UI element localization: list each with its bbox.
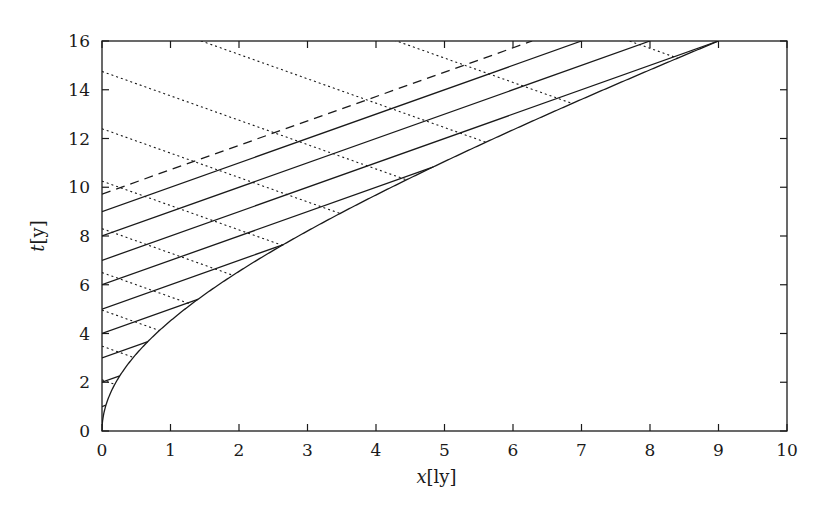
y-tick-label: 0: [79, 421, 90, 441]
y-axis-label-unit: [y]: [27, 220, 48, 244]
x-tick-label: 7: [576, 440, 587, 460]
x-tick-label: 1: [165, 440, 176, 460]
y-tick-label: 16: [68, 31, 90, 51]
y-tick-label: 12: [68, 129, 90, 149]
y-tick-label: 4: [79, 324, 90, 344]
return-signal-dotted-line: [102, 229, 233, 276]
x-tick-label: 3: [302, 440, 313, 460]
x-tick-label: 10: [776, 440, 798, 460]
x-tick-label: 9: [713, 440, 724, 460]
light-signal-line: [102, 245, 283, 310]
worldline-curve: [102, 41, 719, 431]
x-tick-label: 8: [645, 440, 656, 460]
y-tick-label: 2: [79, 372, 90, 392]
x-tick-label: 5: [439, 440, 450, 460]
return-signal-dotted-line: [102, 6, 486, 143]
light-signal-line: [102, 41, 650, 236]
y-axis-label: t[y]: [27, 220, 48, 251]
y-tick-label: 8: [79, 226, 90, 246]
x-axis-label-unit: [ly]: [427, 466, 457, 487]
light-signal-line: [102, 41, 719, 260]
return-signal-dotted-line: [102, 71, 407, 179]
y-tick-label: 10: [68, 177, 90, 197]
axis-ticks: [102, 41, 787, 431]
y-tick-label: 14: [68, 80, 90, 100]
return-signal-dotted-line: [102, 310, 159, 330]
x-tick-label: 4: [371, 440, 382, 460]
x-tick-label: 2: [234, 440, 245, 460]
x-tick-labels: 012345678910: [97, 440, 798, 460]
y-tick-labels: 0246810121416: [68, 31, 90, 441]
x-tick-label: 0: [97, 440, 108, 460]
return-signal-dotted-line: [102, 273, 191, 305]
light-signal-line: [102, 342, 148, 358]
x-tick-label: 6: [508, 440, 519, 460]
return-signal-dotted-line: [102, 181, 282, 245]
light-signal-line: [102, 167, 433, 285]
return-signal-dotted-line: [102, 0, 678, 58]
horizon-dashed-line: [102, 41, 532, 194]
x-axis-label: x[ly]: [416, 466, 456, 487]
x-axis-label-var: x: [416, 466, 426, 487]
y-tick-label: 6: [79, 275, 90, 295]
return-signal-dotted-line: [102, 129, 340, 214]
plot-lines: [102, 0, 719, 431]
spacetime-chart: 012345678910 0246810121416 x[ly] t[y]: [0, 0, 821, 521]
plot-frame: [102, 41, 787, 431]
light-signal-line: [102, 41, 582, 212]
